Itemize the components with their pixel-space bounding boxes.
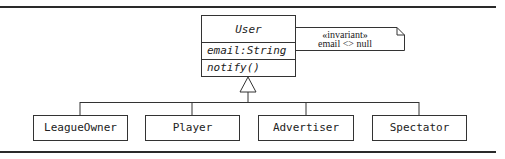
class-user[interactable]: User email:String notify() — [201, 15, 296, 77]
class-operation-notify: notify() — [202, 60, 295, 76]
class-player[interactable]: Player — [145, 115, 240, 141]
class-name-user: User — [202, 16, 295, 43]
class-spectator[interactable]: Spectator — [372, 115, 467, 141]
class-advertiser[interactable]: Advertiser — [258, 115, 354, 141]
class-leagueowner[interactable]: LeagueOwner — [33, 115, 128, 141]
note-constraint: email <> null — [293, 39, 397, 48]
generalization-arrow-icon — [240, 77, 256, 92]
class-attribute-email: email:String — [202, 43, 295, 60]
invariant-note[interactable]: «invariant» email <> null — [293, 27, 405, 51]
